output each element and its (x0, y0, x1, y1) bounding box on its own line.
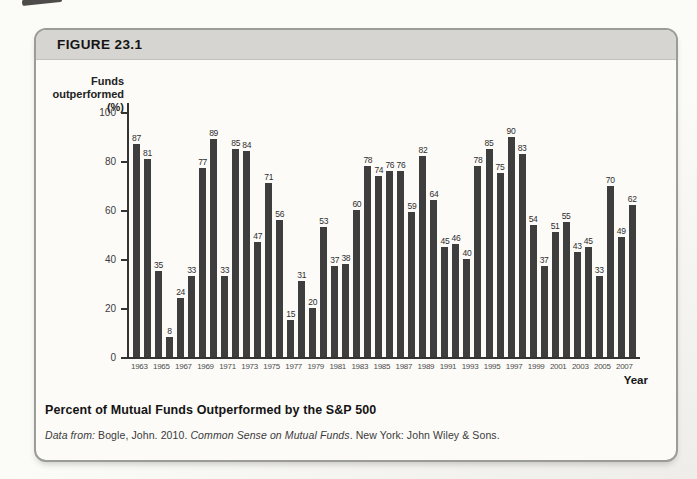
bar (397, 171, 404, 357)
bar (375, 176, 382, 357)
bar-slot-2005: 33 (594, 112, 605, 357)
bar-slot-1996: 75 (495, 112, 506, 357)
bar-value-label: 76 (385, 160, 394, 170)
bar-value-label: 60 (352, 199, 361, 209)
bar-slot-1977: 15 (285, 112, 296, 357)
bar-slot-1987: 76 (395, 112, 406, 357)
bar-slot-1974: 47 (252, 112, 263, 357)
bar-value-label: 24 (176, 287, 185, 297)
bar-slot-1981: 37 (329, 112, 340, 357)
x-tick-label: 1987 (396, 362, 413, 374)
x-tick-label: 1965 (153, 362, 170, 374)
bar-slot-1980: 53 (318, 112, 329, 357)
bar-slot-1963: 87 (131, 112, 142, 357)
x-tick-label: 2005 (594, 362, 611, 374)
bar (309, 308, 316, 357)
x-tick-label: 1979 (307, 362, 324, 374)
bar-slot-1995: 85 (484, 112, 495, 357)
x-axis-title: Year (598, 374, 648, 386)
bar-slot-1992: 46 (450, 112, 461, 357)
bar (254, 242, 261, 357)
figure-number-header: FIGURE 23.1 (36, 30, 676, 60)
bar-slot-2003: 43 (572, 112, 583, 357)
scanned-page: FIGURE 23.1 Funds outperformed (%) 02040… (0, 0, 697, 479)
bar (155, 271, 162, 357)
bar (166, 337, 173, 357)
y-tick-label: 80 (86, 156, 116, 167)
bar-slot-1984: 78 (362, 112, 373, 357)
bar-value-label: 43 (573, 241, 582, 251)
bar-value-label: 45 (441, 236, 450, 246)
bar-value-label: 20 (308, 297, 317, 307)
bar (265, 183, 272, 357)
bar (629, 205, 636, 357)
source-author: Bogle, John. 2010. (95, 429, 190, 441)
y-tick-label: 60 (86, 205, 116, 216)
bar-slot-1998: 83 (517, 112, 528, 357)
bar-slot-2007: 49 (616, 112, 627, 357)
figure-caption: Percent of Mutual Funds Outperformed by … (45, 403, 376, 417)
bar (386, 171, 393, 357)
bar-slot-1970: 89 (208, 112, 219, 357)
bar (574, 252, 581, 357)
bar-slot-1975: 71 (263, 112, 274, 357)
bar (177, 298, 184, 357)
x-tick-label: 2001 (550, 362, 567, 374)
y-axis-line (127, 103, 129, 358)
bar (508, 137, 515, 358)
x-tick-label: 1973 (241, 362, 258, 374)
x-axis-line (127, 357, 640, 359)
bar-slot-1965: 35 (153, 112, 164, 357)
bar (430, 200, 437, 357)
y-axis-title-line1: Funds (38, 75, 124, 88)
bar-value-label: 78 (363, 155, 372, 165)
bar (353, 210, 360, 357)
x-tick-label: 2003 (572, 362, 589, 374)
x-tick-label: 1963 (131, 362, 148, 374)
bar-slot-2006: 70 (605, 112, 616, 357)
bar-value-label: 82 (418, 145, 427, 155)
bar-value-label: 64 (430, 189, 439, 199)
bar-value-label: 49 (617, 226, 626, 236)
bar-value-label: 90 (507, 126, 516, 136)
source-book-title: Common Sense on Mutual Funds (190, 429, 349, 441)
bar-value-label: 56 (275, 209, 284, 219)
x-tick-label: 1975 (263, 362, 280, 374)
bar-slot-1993: 40 (461, 112, 472, 357)
bar-value-label: 54 (529, 214, 538, 224)
bar-value-label: 15 (286, 309, 295, 319)
bar (232, 149, 239, 357)
bar-slot-1982: 38 (340, 112, 351, 357)
bar-value-label: 81 (143, 148, 152, 158)
bar-value-label: 71 (264, 172, 273, 182)
bar (486, 149, 493, 357)
bar-slot-1994: 78 (472, 112, 483, 357)
y-tick-mark (121, 259, 127, 261)
bar-value-label: 85 (231, 138, 240, 148)
x-tick-label: 1969 (197, 362, 214, 374)
y-tick-mark (121, 161, 127, 163)
x-axis-tick-labels: 1963196519671969197119731975197719791981… (131, 362, 638, 374)
bar (530, 225, 537, 357)
y-tick-mark (121, 308, 127, 310)
y-tick-label: 100 (86, 107, 116, 118)
bar (419, 156, 426, 357)
bar-slot-2008: 62 (627, 112, 638, 357)
bar-slot-1997: 90 (506, 112, 517, 357)
bar-value-label: 53 (319, 216, 328, 226)
x-tick-label: 1981 (329, 362, 346, 374)
bar (497, 173, 504, 357)
bar-value-label: 62 (628, 194, 637, 204)
y-tick-mark (121, 112, 127, 114)
bar-slot-1983: 60 (351, 112, 362, 357)
x-tick-label: 1977 (285, 362, 302, 374)
bar-value-label: 74 (374, 165, 383, 175)
bar (298, 281, 305, 357)
y-tick-label: 0 (86, 352, 116, 363)
bar-value-label: 40 (463, 248, 472, 258)
x-tick-label: 1983 (351, 362, 368, 374)
bar (133, 144, 140, 357)
bar-slot-1972: 85 (230, 112, 241, 357)
bar-slot-1979: 20 (307, 112, 318, 357)
bar-value-label: 47 (253, 231, 262, 241)
